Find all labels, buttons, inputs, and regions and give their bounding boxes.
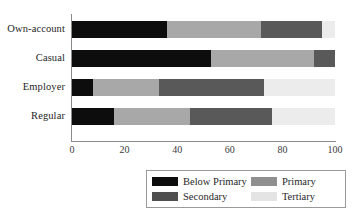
bar-segment-own-account-primary [167,21,262,38]
bar-segment-own-account-below-primary [72,21,167,38]
legend-label: Secondary [183,191,227,203]
x-tick-20: 20 [120,143,130,156]
x-axis-tick-labels: 020406080100 [0,143,357,159]
legend-swatch-secondary-icon [152,192,178,201]
bar-segment-casual-below-primary [72,50,211,67]
bar-row [72,50,335,67]
bar-segment-employer-tertiary [264,79,335,96]
legend-item-tertiary: Tertiary [251,189,340,204]
bar-series-container [72,14,335,140]
x-tick-100: 100 [328,143,343,156]
legend-label: Tertiary [282,191,315,203]
bar-segment-casual-primary [211,50,314,67]
legend-swatch-below-primary-icon [152,177,178,186]
x-tick-40: 40 [172,143,182,156]
legend-swatch-tertiary-icon [251,192,277,201]
bar-row [72,108,335,125]
plot-area: Own-accountCasualEmployerRegular 0204060… [0,0,357,160]
legend-swatch-primary-icon [251,177,277,186]
legend-label: Primary [282,176,316,188]
legend-item-primary: Primary [251,174,340,189]
bar-segment-employer-below-primary [72,79,93,96]
chart-legend: Below PrimaryPrimarySecondaryTertiary [146,170,346,208]
bar-segment-regular-below-primary [72,108,114,125]
x-tick-80: 80 [277,143,287,156]
legend-item-below-primary: Below Primary [152,174,247,189]
x-axis-line [71,141,336,142]
x-tick-0: 0 [70,143,75,156]
category-label-own-account: Own-account [7,23,65,35]
bar-segment-employer-secondary [159,79,264,96]
bar-segment-own-account-tertiary [322,21,335,38]
bar-segment-regular-primary [114,108,190,125]
x-tick-60: 60 [225,143,235,156]
stacked-bar-chart: Own-accountCasualEmployerRegular 0204060… [0,0,357,214]
bar-segment-own-account-secondary [261,21,321,38]
legend-grid: Below PrimaryPrimarySecondaryTertiary [152,174,340,204]
legend-item-secondary: Secondary [152,189,247,204]
bar-segment-regular-tertiary [272,108,335,125]
category-label-casual: Casual [36,52,65,64]
bar-segment-regular-secondary [190,108,272,125]
bar-row [72,21,335,38]
category-axis-labels: Own-accountCasualEmployerRegular [0,14,68,140]
bar-segment-casual-secondary [314,50,335,67]
legend-label: Below Primary [183,176,247,188]
category-label-employer: Employer [23,81,65,93]
bar-row [72,79,335,96]
bar-segment-employer-primary [93,79,159,96]
category-label-regular: Regular [31,110,65,122]
